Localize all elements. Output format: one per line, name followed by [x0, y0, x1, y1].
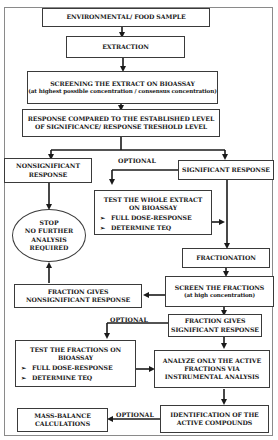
node-screen-fractions: SCREEN THE FRACTIONS (at high concentrat…: [165, 276, 274, 307]
node-stop: STOP NO FURTHER ANALYSIS REQUIRED: [12, 209, 86, 262]
node-analyze-line2: FRACTIONS VIA: [184, 365, 240, 373]
node-frac-sig-line2: SIGNIFICANT RESPONSE: [171, 326, 259, 334]
node-nonsignificant-response: NONSIGNIFICANT RESPONSE: [4, 158, 92, 183]
node-analyze-active-fractions: ANALYZE ONLY THE ACTIVE FRACTIONS VIA IN…: [154, 350, 270, 388]
edge-label-optional-1: OPTIONAL: [118, 157, 156, 164]
node-significant-response: SIGNIFICANT RESPONSE: [178, 160, 274, 180]
node-test-whole-line1: TEST THE WHOLE EXTRACT: [104, 196, 203, 204]
node-ident-line2: ACTIVE COMPOUNDS: [177, 419, 252, 427]
node-compare-line1: RESPONSE COMPARED TO THE ESTABLISHED LEV…: [28, 115, 214, 123]
node-test-whole-line2: ON BIOASSAY: [129, 204, 177, 212]
node-sig-label: SIGNIFICANT RESPONSE: [182, 166, 270, 174]
node-sample-label: ENVIRONMENTAL/ FOOD SAMPLE: [66, 13, 185, 21]
node-screen-fractions-subtitle: (at high concentration): [184, 292, 255, 299]
node-nonsig-line1: NONSIGNIFICANT: [16, 162, 80, 170]
list-item-label: FULL DOSE-RESPONSE: [32, 363, 113, 373]
node-screen-fractions-title: SCREEN THE FRACTIONS: [175, 284, 264, 292]
list-item-label: FULL DOSE-RESPONSE: [111, 213, 192, 223]
node-stop-line1: STOP: [39, 219, 58, 227]
node-test-fractions-line1: TEST THE FRACTIONS ON: [30, 346, 121, 354]
list-item: ➢DETERMINE TEQ: [100, 223, 192, 233]
bullet-arrow-icon: ➢: [21, 373, 26, 383]
test-whole-list: ➢FULL DOSE-RESPONSE ➢DETERMINE TEQ: [100, 213, 192, 232]
node-stop-line2: NO FURTHER: [25, 227, 73, 235]
node-frac-nonsig-line2: NONSIGNIFICANT RESPONSE: [26, 296, 130, 304]
bullet-arrow-icon: ➢: [100, 223, 105, 233]
edge-label-optional-3: OPTIONAL: [116, 411, 154, 418]
node-ident-line1: IDENTIFICATION OF THE: [170, 411, 259, 419]
node-mass-line1: MASS-BALANCE: [34, 412, 91, 420]
node-compare-line2: OF SIGNIFICANCE/ RESPONSE TRESHOLD LEVEL: [35, 123, 207, 131]
bullet-arrow-icon: ➢: [100, 213, 105, 223]
node-stop-line4: REQUIRED: [30, 244, 69, 252]
node-test-fractions-line2: BIOASSAY: [58, 354, 93, 362]
node-identification: IDENTIFICATION OF THE ACTIVE COMPOUNDS: [160, 405, 269, 433]
node-mass-balance: MASS-BALANCE CALCULATIONS: [17, 408, 108, 432]
node-fraction-significant: FRACTION GIVES SIGNIFICANT RESPONSE: [168, 314, 262, 337]
node-stop-line3: ANALYSIS: [31, 236, 66, 244]
node-fraction-nonsignificant: FRACTION GIVES NONSIGNIFICANT RESPONSE: [14, 284, 142, 308]
list-item: ➢DETERMINE TEQ: [21, 373, 113, 383]
node-fractionation-label: FRACTIONATION: [196, 254, 256, 262]
node-sample: ENVIRONMENTAL/ FOOD SAMPLE: [42, 8, 210, 27]
node-screening: SCREENING THE EXTRACT ON BIOASSAY (at hi…: [27, 71, 218, 104]
list-item-label: DETERMINE TEQ: [32, 373, 92, 383]
list-item: ➢FULL DOSE-RESPONSE: [100, 213, 192, 223]
node-screening-title: SCREENING THE EXTRACT ON BIOASSAY: [50, 80, 195, 88]
node-test-fractions: TEST THE FRACTIONS ON BIOASSAY ➢FULL DOS…: [15, 340, 136, 387]
node-analyze-line3: INSTRUMENTAL ANALYSIS: [165, 373, 259, 381]
node-frac-nonsig-line1: FRACTION GIVES: [48, 288, 109, 296]
node-screening-subtitle: (at highest possible concentration / con…: [28, 88, 216, 95]
node-analyze-line1: ANALYZE ONLY THE ACTIVE: [163, 357, 261, 365]
list-item: ➢FULL DOSE-RESPONSE: [21, 363, 113, 373]
node-nonsig-line2: RESPONSE: [29, 171, 67, 179]
node-frac-sig-line1: FRACTION GIVES: [185, 317, 246, 325]
node-extraction-label: EXTRACTION: [102, 43, 149, 51]
node-extraction: EXTRACTION: [66, 36, 185, 58]
node-test-whole-extract: TEST THE WHOLE EXTRACT ON BIOASSAY ➢FULL…: [94, 190, 212, 235]
node-fractionation: FRACTIONATION: [182, 248, 270, 268]
node-response-compared: RESPONSE COMPARED TO THE ESTABLISHED LEV…: [22, 109, 220, 137]
test-fractions-list: ➢FULL DOSE-RESPONSE ➢DETERMINE TEQ: [21, 363, 113, 382]
list-item-label: DETERMINE TEQ: [111, 223, 171, 233]
node-mass-line2: CALCULATIONS: [35, 420, 90, 428]
bullet-arrow-icon: ➢: [21, 363, 26, 373]
edge-label-optional-2: OPTIONAL: [110, 316, 148, 323]
